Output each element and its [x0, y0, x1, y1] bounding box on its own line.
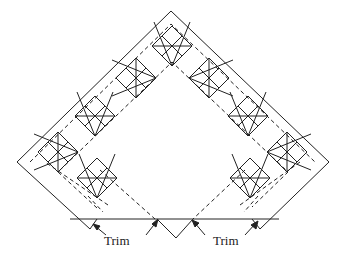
quilt-diagram: [0, 0, 345, 257]
trim-label-right: Trim: [213, 234, 239, 247]
trim-line: [70, 219, 279, 238]
outer-border: [17, 11, 329, 229]
trim-label-left: Trim: [104, 234, 130, 247]
pieced-blocks: [34, 22, 311, 198]
